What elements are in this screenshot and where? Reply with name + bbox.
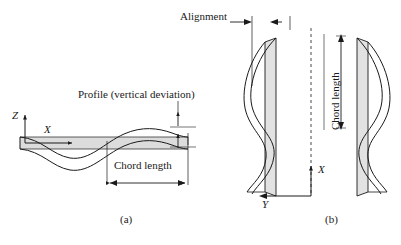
panel-b-drawing — [230, 16, 390, 199]
panel-b-alignment-dimension — [230, 16, 290, 86]
panel-a-drawing — [20, 101, 196, 186]
panel-caption-b: (b) — [325, 214, 338, 225]
axis-label-z: Z — [12, 110, 18, 121]
alignment-label: Alignment — [180, 11, 227, 22]
axis-label-x-panel-b: X — [318, 164, 325, 175]
panel-b-left-rail — [244, 38, 276, 196]
axis-label-x-panel-a: X — [44, 124, 51, 135]
rail-geometry-figure: Profile (vertical deviation) Z X Chord l… — [0, 0, 401, 245]
chord-length-label-panel-a: Chord length — [114, 160, 172, 171]
profile-deviation-label: Profile (vertical deviation) — [78, 89, 195, 100]
axis-label-y: Y — [262, 199, 268, 210]
panel-b-right-rail — [357, 38, 390, 196]
chord-length-label-panel-b: Chord length — [330, 72, 341, 130]
panel-caption-a: (a) — [120, 214, 132, 225]
